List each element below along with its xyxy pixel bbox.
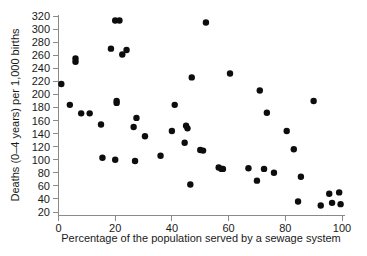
data-point: [99, 155, 105, 161]
x-axis-title: Percentage of the population served by a…: [61, 232, 340, 244]
data-point: [98, 121, 104, 127]
y-tick-label: 280: [32, 36, 50, 48]
data-point: [169, 128, 175, 134]
y-tick-label: 180: [32, 101, 50, 113]
y-axis-title: Deaths (0–4 years) per 1,000 births: [9, 28, 21, 202]
data-point: [108, 45, 114, 51]
data-point: [310, 98, 316, 104]
y-tick-label: 320: [32, 10, 50, 22]
data-point: [271, 170, 277, 176]
data-point: [116, 17, 122, 23]
y-tick-label: 80: [38, 167, 50, 179]
data-point: [189, 74, 195, 80]
y-tick-label: 200: [32, 88, 50, 100]
data-point: [112, 157, 118, 163]
data-point: [329, 200, 335, 206]
data-point: [336, 189, 342, 195]
data-point: [227, 70, 233, 76]
data-point: [130, 124, 136, 130]
data-point: [295, 198, 301, 204]
data-point: [261, 166, 267, 172]
scatter-plot-figure: 2040608010012014016018020022024026028030…: [0, 0, 367, 256]
y-tick-label: 240: [32, 62, 50, 74]
data-points-layer: [58, 17, 344, 208]
data-point: [142, 133, 148, 139]
data-point: [132, 158, 138, 164]
data-point: [184, 125, 190, 131]
y-tick-label: 260: [32, 49, 50, 61]
data-point: [78, 110, 84, 116]
data-point: [337, 201, 343, 207]
data-point: [200, 147, 206, 153]
data-point: [187, 181, 193, 187]
data-point: [298, 174, 304, 180]
y-tick-label: 40: [38, 193, 50, 205]
data-point: [133, 115, 139, 121]
data-point: [254, 177, 260, 183]
data-point: [203, 19, 209, 25]
data-point: [157, 153, 163, 159]
data-point: [113, 98, 119, 104]
data-point: [291, 146, 297, 152]
data-point: [257, 87, 263, 93]
y-axis-ticks: 2040608010012014016018020022024026028030…: [32, 10, 59, 218]
data-point: [245, 165, 251, 171]
data-point: [67, 102, 73, 108]
y-tick-label: 160: [32, 115, 50, 127]
y-tick-label: 140: [32, 128, 50, 140]
y-tick-label: 120: [32, 141, 50, 153]
data-point: [284, 128, 290, 134]
data-point: [264, 109, 270, 115]
y-tick-label: 60: [38, 180, 50, 192]
data-point: [72, 55, 78, 61]
data-point: [220, 166, 226, 172]
data-point: [86, 110, 92, 116]
data-point: [318, 202, 324, 208]
y-tick-label: 20: [38, 206, 50, 218]
y-tick-label: 220: [32, 75, 50, 87]
data-point: [172, 102, 178, 108]
data-point: [181, 140, 187, 146]
y-tick-label: 300: [32, 23, 50, 35]
data-point: [123, 47, 129, 53]
data-point: [58, 81, 64, 87]
data-point: [326, 191, 332, 197]
chart-canvas: 2040608010012014016018020022024026028030…: [0, 0, 367, 256]
y-tick-label: 100: [32, 154, 50, 166]
